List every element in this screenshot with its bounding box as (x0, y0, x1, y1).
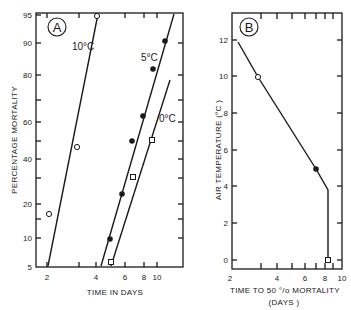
panel-b-y-ticks (232, 40, 342, 260)
point-0c (326, 258, 331, 263)
svg-text:10: 10 (338, 274, 347, 283)
svg-text:6: 6 (303, 274, 308, 283)
panel-b-x-axis-title: TIME TO 50 °/o MORTALITY (230, 286, 340, 295)
svg-text:4: 4 (224, 182, 229, 191)
svg-text:80: 80 (23, 71, 32, 80)
series-10c-label: 10°C (72, 41, 94, 52)
svg-text:4: 4 (94, 273, 99, 282)
svg-text:40: 40 (23, 155, 32, 164)
panel-a-y-ticks (36, 15, 183, 238)
series-5c-label: 5°C (141, 52, 158, 63)
panel-b-x-axis-subtitle: (DAYS ) (269, 298, 300, 307)
panel-a-x-axis-title: TIME IN DAYS (87, 288, 143, 297)
svg-text:2: 2 (45, 273, 50, 282)
svg-text:8: 8 (323, 274, 328, 283)
series-0c-label: 0°C (159, 113, 176, 124)
series-5c-line (101, 14, 174, 266)
svg-text:10: 10 (219, 72, 228, 81)
svg-text:90: 90 (23, 39, 32, 48)
panel-b (232, 13, 342, 269)
svg-text:2: 2 (228, 274, 233, 283)
panel-a-y-axis-title: PERCENTAGE MORTALITY (10, 86, 19, 194)
series-0c-line (111, 80, 170, 266)
point-5c (313, 166, 319, 172)
figure: A 95 90 80 60 40 20 10 5 2 4 6 8 10 TIME… (0, 0, 351, 310)
svg-text:10: 10 (23, 234, 32, 243)
series-tl50-line (238, 42, 328, 258)
svg-text:20: 20 (23, 200, 32, 209)
svg-text:8: 8 (224, 109, 229, 118)
svg-text:60: 60 (23, 118, 32, 127)
panel-a-frame (36, 13, 183, 267)
svg-text:6: 6 (123, 273, 128, 282)
svg-text:8: 8 (142, 273, 147, 282)
svg-text:2: 2 (224, 219, 229, 228)
panel-a-x-tick-labels: 2 4 6 8 10 (45, 273, 162, 282)
panel-a-y-tick-labels: 95 90 80 60 40 20 10 5 (23, 11, 32, 272)
panel-b-y-axis-title: AIR TEMPERATURE (°C ) (214, 100, 223, 200)
svg-text:10: 10 (153, 273, 162, 282)
panel-b-label: B (245, 20, 254, 35)
svg-text:6: 6 (224, 146, 229, 155)
svg-text:5: 5 (28, 263, 33, 272)
point-10c (255, 74, 260, 79)
svg-text:12: 12 (219, 36, 228, 45)
panel-a (36, 13, 183, 267)
panel-b-x-ticks (261, 13, 333, 269)
svg-text:0: 0 (224, 256, 229, 265)
svg-text:4: 4 (275, 274, 280, 283)
panel-b-x-tick-labels: 2 4 6 8 10 (228, 274, 347, 283)
panel-a-label: A (53, 20, 62, 35)
svg-text:95: 95 (23, 11, 32, 20)
panel-b-frame (232, 13, 342, 269)
